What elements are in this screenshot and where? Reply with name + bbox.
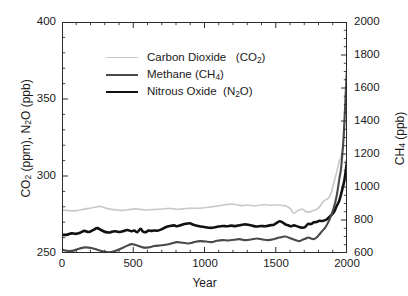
legend-formula-co2-post: ) xyxy=(262,51,266,63)
legend-item-n2o: Nitrous Oxide (N2O) xyxy=(106,83,265,100)
y-left-mid-text: (ppm), N xyxy=(19,125,33,175)
xtick-2000: 2000 xyxy=(317,258,377,270)
legend-formula-n2o-post: O) xyxy=(240,85,253,97)
legend-line-n2o-icon xyxy=(106,91,138,93)
legend-formula-ch4-post: ) xyxy=(220,68,224,80)
legend-line-ch4-icon xyxy=(106,74,138,76)
xtick-1500: 1500 xyxy=(246,258,306,270)
legend-name-ch4: Methane xyxy=(147,68,192,80)
legend-label-co2: Carbon Dioxide (CO2) xyxy=(147,51,265,65)
ytick-left-400: 400 xyxy=(10,16,56,28)
legend-item-co2: Carbon Dioxide (CO2) xyxy=(106,49,265,66)
legend-line-co2-icon xyxy=(106,57,138,58)
legend: Carbon Dioxide (CO2) Methane (CH4) Nitro… xyxy=(106,49,265,100)
legend-label-n2o: Nitrous Oxide (N2O) xyxy=(147,85,253,99)
xtick-0: 0 xyxy=(32,258,92,270)
xtick-500: 500 xyxy=(103,258,163,270)
ytick-right-2000: 2000 xyxy=(354,16,400,28)
y-axis-right-title: CH4 (ppb) xyxy=(393,28,408,248)
y-axis-left-title: CO2 (ppm), N2O (ppb) xyxy=(19,28,34,248)
y-left-end-text: O (ppb) xyxy=(19,79,33,120)
series-line-n2o xyxy=(63,148,347,235)
ytick-left-250: 250 xyxy=(10,247,56,259)
legend-formula-co2-pre: (CO xyxy=(236,51,257,63)
legend-formula-n2o-pre: (N xyxy=(223,85,235,97)
legend-name-co2: Carbon Dioxide xyxy=(147,51,226,63)
legend-label-ch4: Methane (CH4) xyxy=(147,68,224,82)
y-left-co2-sub: 2 xyxy=(23,175,33,180)
y-left-co2-text: CO xyxy=(19,180,33,198)
y-left-n2o-sub: 2 xyxy=(23,120,33,125)
ytick-right-600: 600 xyxy=(354,247,400,259)
y-right-ch4-sub: 4 xyxy=(397,143,407,148)
x-axis-title: Year xyxy=(62,276,347,290)
greenhouse-gas-concentration-chart: 400 350 300 250 2000 1800 1600 1400 1200… xyxy=(0,0,408,296)
legend-name-n2o: Nitrous Oxide xyxy=(147,85,217,97)
legend-item-ch4: Methane (CH4) xyxy=(106,66,265,83)
legend-formula-ch4-pre: (CH xyxy=(195,68,215,80)
y-right-unit-text: (ppb) xyxy=(393,112,407,143)
xtick-1000: 1000 xyxy=(175,258,235,270)
y-right-ch4-text: CH xyxy=(393,148,407,165)
